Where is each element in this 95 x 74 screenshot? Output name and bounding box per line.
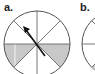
shaded-sector-right <box>37 44 70 67</box>
shaded-sector-left <box>4 44 37 67</box>
diagram <box>0 0 95 74</box>
panel-a-circle <box>4 11 70 74</box>
panel-b-circle <box>82 11 95 74</box>
